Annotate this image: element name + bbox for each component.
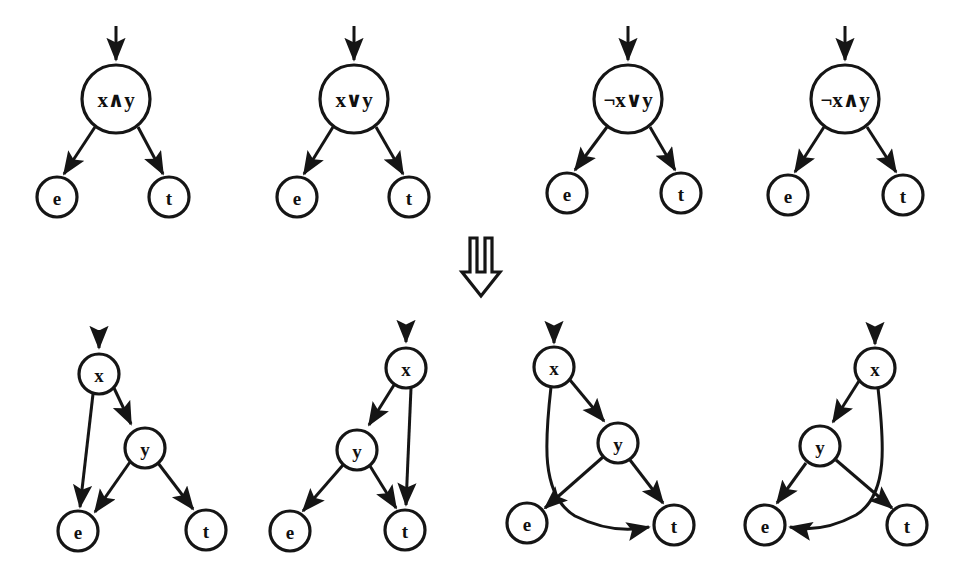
bottom-graph-not-or: x y e t <box>507 328 694 545</box>
node-y-label: y <box>613 434 623 455</box>
node-t-label: t <box>671 516 678 537</box>
node-t-label: t <box>203 521 210 542</box>
node-y-label: y <box>140 439 150 460</box>
top-row-group: x∧y e t x∨y e t <box>37 26 923 217</box>
node-e-label: e <box>53 188 61 209</box>
edge-root-to-t <box>376 127 403 174</box>
node-x-label: x <box>549 358 559 379</box>
node-e-label: e <box>784 186 792 207</box>
node-root-label: ¬x∧y <box>821 88 871 112</box>
node-t-label: t <box>678 184 685 205</box>
node-y-label: y <box>815 437 825 458</box>
node-x-label: x <box>401 359 411 380</box>
node-t-label: t <box>402 521 409 542</box>
node-t-label: t <box>166 188 173 209</box>
transform-implies-icon <box>462 238 500 296</box>
node-t-label: t <box>900 186 907 207</box>
node-root-label: x∨y <box>335 88 373 112</box>
node-e-label: e <box>563 184 571 205</box>
node-x-label: x <box>870 359 880 380</box>
double-down-arrow-icon <box>462 238 500 296</box>
node-e-label: e <box>523 514 531 535</box>
edge-root-to-e <box>795 127 824 172</box>
edge-y-to-e <box>95 462 130 512</box>
bottom-row-group: x y e t x y e <box>58 326 927 551</box>
graph-transformation-figure: x∧y e t x∨y e t <box>0 0 963 576</box>
node-x-label: x <box>94 365 104 386</box>
top-graph-or: x∨y e t <box>277 26 429 217</box>
edge-root-to-e <box>64 127 95 174</box>
edge-x-to-y <box>570 380 604 421</box>
figure-canvas: x∧y e t x∨y e t <box>0 0 963 576</box>
edge-x-to-y <box>114 388 131 424</box>
top-graph-and: x∧y e t <box>37 26 189 217</box>
edge-root-to-t <box>650 127 675 170</box>
edge-y-to-t <box>630 460 663 503</box>
edge-y-to-t <box>836 460 892 508</box>
edge-x-to-t-curved <box>547 387 649 529</box>
edge-y-to-e <box>303 465 343 511</box>
node-t-label: t <box>904 516 911 537</box>
edge-x-to-e <box>80 394 93 507</box>
node-e-label: e <box>286 522 294 543</box>
node-e-label: e <box>74 522 82 543</box>
node-root-label: ¬x∨y <box>604 88 654 112</box>
edge-y-to-e <box>777 463 806 503</box>
edge-x-to-t <box>406 388 411 505</box>
node-e-label: e <box>761 516 769 537</box>
edge-root-to-t <box>138 127 163 174</box>
top-graph-not-or: ¬x∨y e t <box>547 26 701 213</box>
edge-x-to-y <box>833 381 859 422</box>
top-graph-not-and: ¬x∧y e t <box>768 26 923 215</box>
node-t-label: t <box>406 188 413 209</box>
bottom-graph-or: x y e t <box>270 326 426 551</box>
bottom-graph-and: x y e t <box>58 330 226 551</box>
edge-root-to-t <box>867 127 896 172</box>
edge-y-to-t <box>158 463 193 509</box>
node-y-label: y <box>352 441 362 462</box>
edge-y-to-e <box>545 457 603 508</box>
edge-y-to-t <box>370 466 396 508</box>
edge-root-to-e <box>575 127 607 170</box>
edge-x-to-y <box>369 385 394 425</box>
node-e-label: e <box>293 188 301 209</box>
edge-root-to-e <box>304 127 333 174</box>
bottom-graph-not-and: x y e t <box>745 328 927 545</box>
node-root-label: x∧y <box>97 88 135 112</box>
